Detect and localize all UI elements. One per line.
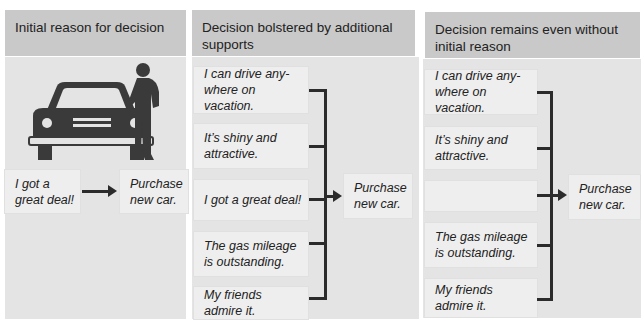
reason-box: I got a great deal! xyxy=(194,180,308,220)
car-and-person-illustration xyxy=(25,62,175,162)
reason-box: The gas mileage is outstanding. xyxy=(194,232,308,276)
outcome-box-purchase: Purchase new car. xyxy=(344,174,412,218)
reason-box: I can drive any- where on vacation. xyxy=(425,70,537,114)
arrow-right-icon xyxy=(333,190,342,202)
arrow-right-icon xyxy=(108,185,117,197)
arrow-line xyxy=(82,190,109,193)
reason-box-empty xyxy=(425,181,537,211)
reason-box: The gas mileage is outstanding. xyxy=(425,223,537,267)
reason-box: It’s shiny and attractive. xyxy=(194,124,308,168)
arrow-right-icon xyxy=(558,189,567,201)
column-header-remains: Decision remains even without initial re… xyxy=(425,12,640,58)
reason-box: It’s shiny and attractive. xyxy=(425,127,537,169)
outcome-box-purchase: Purchase new car. xyxy=(120,170,188,213)
column-header-bolstered: Decision bolstered by additional support… xyxy=(192,10,415,56)
column-header-initial-reason: Initial reason for decision xyxy=(5,10,186,56)
reason-box: My friends admire it. xyxy=(425,279,537,317)
reason-box-great-deal: I got a great deal! xyxy=(5,170,80,213)
reason-box: My friends admire it. xyxy=(194,287,308,319)
outcome-box-purchase: Purchase new car. xyxy=(569,175,640,219)
reason-box: I can drive any- where on vacation. xyxy=(194,67,308,113)
